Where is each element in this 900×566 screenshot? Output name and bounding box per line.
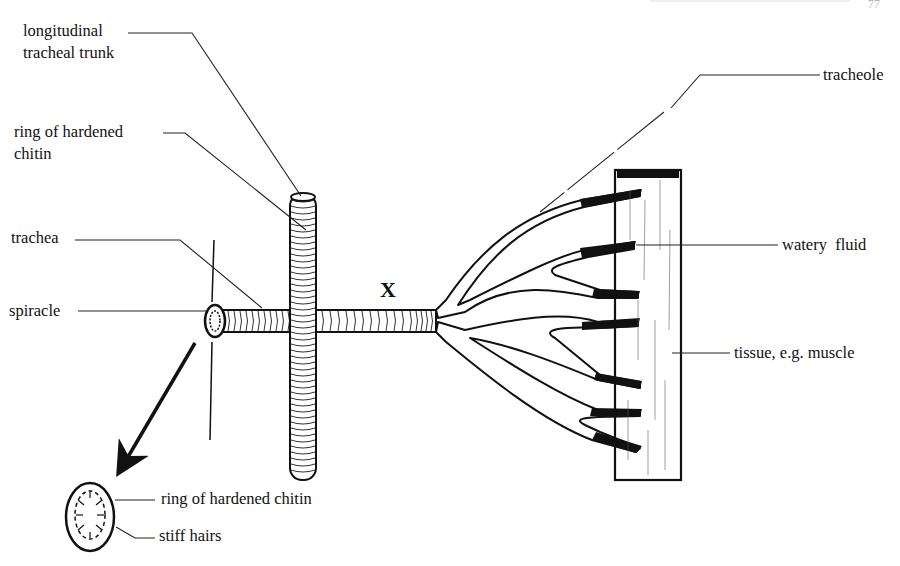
label-ring-chitin-line1: ring of hardened	[14, 122, 124, 141]
trachea-tube	[214, 310, 436, 332]
fluid-tip	[580, 189, 642, 208]
label-longitudinal-line2: tracheal trunk	[23, 43, 115, 62]
label-tissue: tissue, e.g. muscle	[734, 343, 855, 362]
label-ring-chitin-line2: chitin	[14, 144, 52, 163]
fluid-tip	[594, 373, 642, 389]
body-wall	[210, 240, 214, 440]
spiracle-enlarged-inset	[66, 483, 114, 551]
label-spiracle: spiracle	[9, 301, 60, 320]
label-longitudinal-line1: longitudinal	[23, 21, 103, 40]
center-label-x: X	[380, 277, 396, 302]
label-stiff-hairs: stiff hairs	[159, 526, 221, 545]
fluid-tip	[580, 241, 636, 258]
spiracle	[205, 305, 225, 337]
leader-lines	[75, 33, 820, 538]
longitudinal-tracheal-trunk	[290, 193, 316, 480]
label-trachea: trachea	[11, 228, 59, 247]
page-number: 77	[868, 0, 880, 11]
label-watery-fluid: watery fluid	[782, 235, 867, 254]
tracheal-system-diagram: 77 X	[0, 0, 900, 566]
tracheoles	[436, 189, 642, 453]
enlarge-arrow	[125, 343, 195, 462]
label-inset-ring: ring of hardened chitin	[161, 489, 312, 508]
label-tracheole: tracheole	[823, 65, 883, 84]
